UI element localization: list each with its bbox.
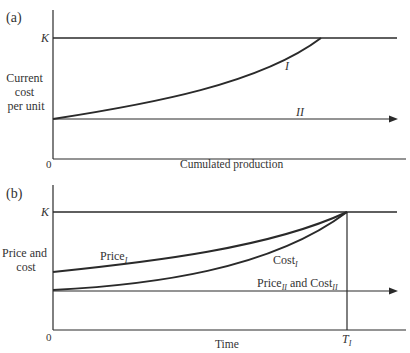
panel-b-price-cost-II-label: PriceII and CostII bbox=[257, 276, 338, 292]
panel-b-k-label: K bbox=[40, 205, 50, 219]
panel-b-x-label: Time bbox=[215, 338, 239, 350]
arrow-head-icon bbox=[389, 288, 398, 295]
panel-b-price-I-curve bbox=[53, 212, 347, 272]
panel-b-cost-I-label: CostI bbox=[273, 253, 298, 269]
panel-a-label: (a) bbox=[6, 10, 22, 26]
panel-a-curve-I bbox=[53, 38, 321, 119]
panel-b-y-label: Price and cost bbox=[2, 246, 50, 274]
panel-b-origin: 0 bbox=[46, 331, 52, 343]
panel-b: (b) K PriceI CostI PriceII and CostII Pr… bbox=[2, 185, 406, 350]
panel-a-origin: 0 bbox=[46, 158, 52, 170]
learning-curve-diagram: (a) K II I Current cost per unit 0 Cumul… bbox=[0, 0, 410, 353]
arrow-head-icon bbox=[389, 116, 398, 123]
panel-a-k-label: K bbox=[40, 31, 50, 45]
panel-b-price-I-label: PriceI bbox=[100, 249, 128, 265]
panel-a-label-I: I bbox=[284, 59, 290, 73]
panel-b-label: (b) bbox=[6, 186, 23, 202]
panel-a-x-label: Cumulated production bbox=[180, 158, 283, 171]
panel-b-t-label: TI bbox=[342, 332, 352, 348]
panel-a-y-label: Current cost per unit bbox=[6, 71, 46, 113]
panel-a: (a) K II I Current cost per unit 0 Cumul… bbox=[6, 10, 406, 171]
panel-a-label-II: II bbox=[295, 105, 305, 119]
